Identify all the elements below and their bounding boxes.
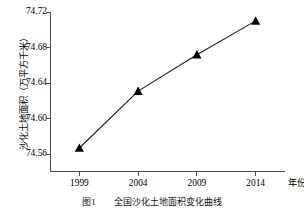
x-tick-label: 1999 (49, 179, 109, 188)
y-axis-tick-labels: 74.56 74.60 74.64 74.68 74.72 (0, 0, 47, 210)
y-tick-label: 74.68 (3, 43, 47, 52)
x-axis-title: 年份 (288, 179, 304, 188)
y-tick-label: 74.64 (3, 78, 47, 87)
data-point-marker (134, 87, 143, 95)
data-point-marker (251, 16, 260, 24)
plot-area: 1999 2004 2009 2014 年份 (50, 12, 285, 172)
y-tick-label: 74.72 (3, 7, 47, 16)
x-tick-label: 2009 (167, 179, 227, 188)
series-line (79, 21, 255, 148)
chart-figure: 沙化土地面积（万平方千米） 74.56 74.60 74.64 74.68 74… (0, 0, 304, 210)
series-markers (75, 16, 260, 151)
figure-caption: 图1 全国沙化土地面积变化曲线 (0, 198, 304, 208)
y-tick-label: 74.56 (3, 150, 47, 159)
y-tick-label: 74.60 (3, 114, 47, 123)
x-tick-label: 2004 (108, 179, 168, 188)
x-tick-label: 2014 (226, 179, 286, 188)
data-point-marker (192, 50, 201, 58)
data-series (50, 12, 285, 172)
